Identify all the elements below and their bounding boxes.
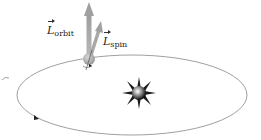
star-icon <box>122 77 156 109</box>
l-orbit-subscript: orbit <box>54 29 74 38</box>
orbit-path <box>17 55 247 135</box>
spin-angular-momentum-vector-icon <box>90 21 103 58</box>
label-l-spin: Lspin <box>103 32 127 48</box>
label-l-orbit: Lorbit <box>47 21 74 37</box>
orbit-direction-arrow-icon <box>34 115 39 120</box>
l-spin-subscript: spin <box>110 40 127 49</box>
left-curve-mark <box>2 77 9 80</box>
diagram-stage: Lorbit Lspin <box>0 0 261 140</box>
orbit-diagram <box>0 0 261 140</box>
